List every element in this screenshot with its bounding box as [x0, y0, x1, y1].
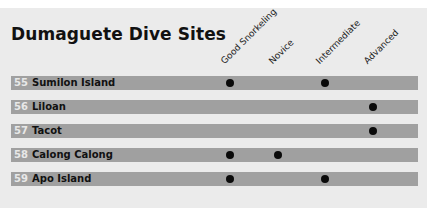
site-number: 58: [14, 148, 28, 162]
table-row: 58 Calong Calong: [11, 148, 418, 162]
novice-dot-icon: [274, 151, 282, 159]
table-row: 59 Apo Island: [11, 172, 418, 186]
site-number: 55: [14, 76, 28, 90]
site-name: Sumilon Island: [32, 76, 115, 90]
site-number: 56: [14, 100, 28, 114]
table-row: 57 Tacot: [11, 124, 418, 138]
good-snorkeling-dot-icon: [226, 79, 234, 87]
table-row: 55 Sumilon Island: [11, 76, 418, 90]
site-name: Tacot: [32, 124, 62, 138]
site-name: Liloan: [32, 100, 66, 114]
intermediate-dot-icon: [321, 175, 329, 183]
site-name: Calong Calong: [32, 148, 113, 162]
advanced-dot-icon: [369, 103, 377, 111]
table-row: 56 Liloan: [11, 100, 418, 114]
page-title: Dumaguete Dive Sites: [11, 24, 226, 44]
good-snorkeling-dot-icon: [226, 175, 234, 183]
advanced-dot-icon: [369, 127, 377, 135]
good-snorkeling-dot-icon: [226, 151, 234, 159]
site-number: 59: [14, 172, 28, 186]
intermediate-dot-icon: [321, 79, 329, 87]
site-name: Apo Island: [32, 172, 91, 186]
site-number: 57: [14, 124, 28, 138]
